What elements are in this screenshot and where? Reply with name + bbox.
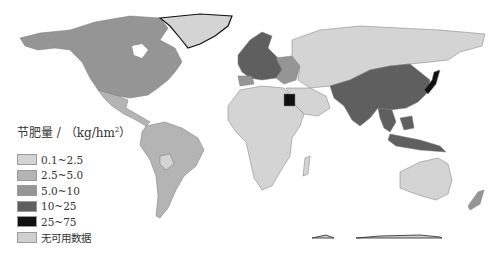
- region-southeast-asia: [378, 108, 446, 152]
- legend-swatch: [17, 201, 37, 212]
- legend-item: 无可用数据: [17, 230, 131, 246]
- region-north-america: [20, 16, 182, 98]
- legend-item: 25~75: [17, 214, 131, 230]
- legend-title: 节肥量 / （kg/hm2）: [17, 123, 131, 140]
- region-egypt: [284, 94, 295, 106]
- legend-swatch: [17, 216, 37, 227]
- region-europe-west: [238, 32, 282, 80]
- region-australia: [400, 158, 452, 200]
- legend-swatch: [17, 185, 37, 196]
- legend-item: 0.1~2.5: [17, 152, 131, 168]
- region-antarctica: [312, 235, 442, 238]
- region-greenland: [160, 14, 232, 48]
- region-south-america: [140, 122, 204, 218]
- legend: 节肥量 / （kg/hm2） 0.1~2.5 2.5~5.0 5.0~10 10…: [17, 123, 131, 245]
- legend-item: 2.5~5.0: [17, 168, 131, 184]
- legend-swatch: [17, 232, 37, 243]
- legend-swatch: [17, 170, 37, 181]
- legend-swatch: [17, 154, 37, 165]
- region-new-zealand: [468, 190, 484, 210]
- region-madagascar: [303, 156, 310, 176]
- legend-item: 5.0~10: [17, 183, 131, 199]
- legend-item: 10~25: [17, 199, 131, 215]
